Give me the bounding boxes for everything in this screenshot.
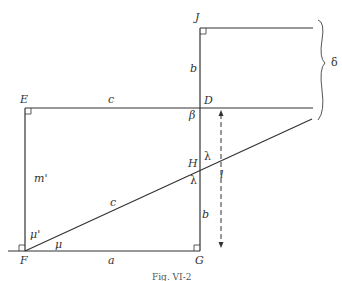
label-segment-FH: c [110, 196, 116, 209]
label-delta: δ [331, 56, 338, 69]
label-angle-lambda-upper: λ [204, 150, 211, 163]
label-segment-ED: c [108, 93, 114, 106]
arrowhead-up-icon [219, 110, 224, 116]
label-E: E [19, 93, 28, 106]
label-segment-FG: a [108, 254, 115, 267]
arrowhead-down-icon [219, 242, 224, 248]
label-segment-JD: b [190, 62, 197, 75]
label-segment-HG: b [202, 208, 209, 221]
label-angle-mu-prime: μ' [30, 228, 40, 241]
label-F: F [19, 254, 28, 267]
label-segment-EF: m' [34, 172, 47, 185]
right-angle-J [200, 28, 206, 34]
right-angle-G [194, 245, 200, 251]
label-H: H [187, 157, 198, 170]
label-D: D [203, 94, 213, 107]
label-l: l [220, 168, 224, 181]
right-angle-E [25, 108, 31, 114]
label-G: G [195, 254, 204, 267]
label-J: J [193, 11, 200, 24]
figure-caption: Fig. VI-2 [152, 272, 191, 281]
brace-icon [318, 20, 325, 120]
label-angle-lambda-lower: λ [190, 174, 197, 187]
geometry-diagram: J b δ E c D β λ H λ l m' c b μ' μ F a G … [0, 0, 342, 281]
line-F-H-diagonal [25, 119, 312, 251]
label-angle-beta: β [188, 109, 195, 122]
label-angle-mu: μ [55, 238, 62, 251]
right-angle-F [19, 245, 25, 251]
